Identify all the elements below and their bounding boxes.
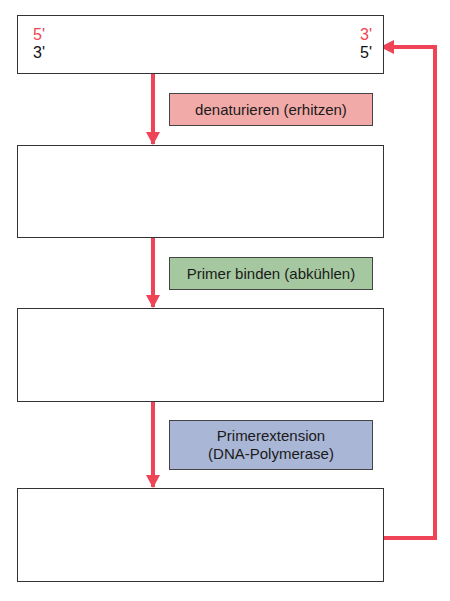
panel-extended	[17, 488, 384, 582]
step-anneal-label: Primer binden (abkühlen)	[169, 257, 373, 290]
strand-label-3prime-bottom: 3'	[33, 44, 45, 62]
strand-label-3prime-top: 3'	[360, 26, 372, 44]
panel-denatured	[17, 145, 384, 238]
panel-double-strand	[17, 15, 384, 74]
step-denature-label: denaturieren (erhitzen)	[169, 93, 373, 126]
strand-label-5prime-top: 5'	[33, 26, 45, 44]
panel-primer-bound	[17, 308, 384, 402]
step-extension-label: Primerextension (DNA-Polymerase)	[169, 420, 373, 470]
strand-label-5prime-bottom: 5'	[360, 44, 372, 62]
